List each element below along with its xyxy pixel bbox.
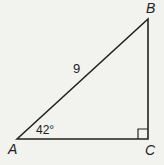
right-angle-marker bbox=[138, 129, 148, 139]
triangle-abc bbox=[17, 19, 148, 139]
triangle-diagram: B A C 9 42° bbox=[0, 0, 164, 165]
vertex-label-c: C bbox=[145, 142, 156, 158]
vertex-label-b: B bbox=[146, 0, 155, 16]
vertex-label-a: A bbox=[7, 141, 17, 157]
triangle-svg: B A C 9 42° bbox=[0, 0, 164, 165]
angle-a-label: 42° bbox=[36, 123, 54, 137]
hypotenuse-label: 9 bbox=[73, 61, 80, 76]
